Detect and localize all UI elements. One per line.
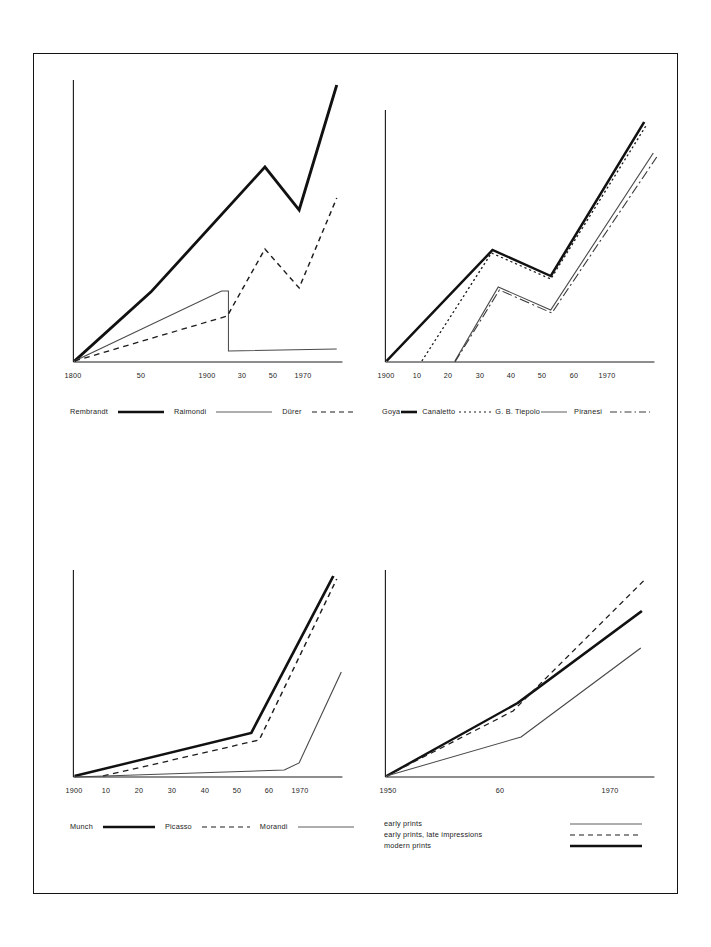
series-line-picasso bbox=[103, 579, 337, 776]
plot-svg-4 bbox=[374, 570, 659, 785]
chart-goya: 1900 10 20 30 40 50 60 1970 Goya Canalet… bbox=[374, 110, 659, 460]
legend-chart-2: Goya Canaletto G. B. Tiepolo bbox=[374, 407, 659, 416]
legend-entry-tiepolo: G. B. Tiepolo bbox=[495, 407, 574, 416]
tick-label: 1970 bbox=[292, 786, 309, 795]
tick-label: 1970 bbox=[602, 786, 619, 795]
x-axis-ticks-2: 1900 10 20 30 40 50 60 1970 bbox=[374, 371, 659, 385]
chart-prints: 1950 60 1970 early prints early prints, … bbox=[374, 570, 659, 865]
legend-label: Canaletto bbox=[422, 407, 455, 416]
legend-entry-early-prints-late-impressions: early prints, late impressions bbox=[384, 829, 642, 840]
legend-entry-munch: Munch bbox=[70, 822, 165, 831]
legend-sample-thin-solid bbox=[570, 820, 642, 828]
chart-munch: 1900 10 20 30 40 50 60 1970 Munch Picass… bbox=[62, 570, 347, 865]
legend-chart-4: early prints early prints, late impressi… bbox=[374, 818, 642, 851]
legend-entry-picasso: Picasso bbox=[165, 822, 260, 831]
plot-svg-1 bbox=[62, 80, 347, 370]
legend-sample-dash-dot bbox=[610, 408, 650, 416]
tick-label: 40 bbox=[507, 371, 516, 380]
legend-label: G. B. Tiepolo bbox=[495, 407, 540, 416]
tick-label: 1900 bbox=[378, 371, 395, 380]
plot-area-2 bbox=[374, 110, 659, 370]
series-line-munch bbox=[75, 576, 334, 776]
legend-entry-piranesi: Piranesi bbox=[574, 407, 654, 416]
legend-label: early prints bbox=[384, 819, 422, 828]
legend-label: Goya bbox=[382, 407, 400, 416]
tick-label: 50 bbox=[538, 371, 547, 380]
legend-sample-thin-solid bbox=[216, 408, 272, 416]
series-line-canaletto bbox=[422, 125, 647, 361]
tick-label: 10 bbox=[413, 371, 422, 380]
tick-label: 1970 bbox=[295, 371, 312, 380]
tick-label: 60 bbox=[496, 786, 505, 795]
legend-sample-thin-solid bbox=[298, 823, 354, 831]
legend-label: Picasso bbox=[165, 822, 192, 831]
axes-2 bbox=[385, 110, 654, 362]
tick-label: 1950 bbox=[380, 786, 397, 795]
tick-label: 60 bbox=[265, 786, 274, 795]
legend-label: modern prints bbox=[384, 841, 431, 850]
tick-label: 50 bbox=[233, 786, 242, 795]
legend-entry-modern-prints: modern prints bbox=[384, 840, 642, 851]
series-line-goya bbox=[387, 122, 645, 361]
tick-label: 30 bbox=[476, 371, 485, 380]
series-group-4 bbox=[387, 579, 646, 776]
tick-label: 1900 bbox=[66, 786, 83, 795]
page-frame: 1800 50 1900 30 50 1970 Rembrandt Raimon… bbox=[33, 53, 678, 894]
series-line-morandi bbox=[75, 672, 342, 777]
legend-entry-early-prints: early prints bbox=[384, 818, 642, 829]
tick-label: 1900 bbox=[199, 371, 216, 380]
legend-entry-canaletto: Canaletto bbox=[422, 407, 495, 416]
plot-svg-3 bbox=[62, 570, 347, 785]
x-axis-ticks-3: 1900 10 20 30 40 50 60 1970 bbox=[62, 786, 347, 800]
tick-label: 10 bbox=[102, 786, 111, 795]
series-group-1 bbox=[75, 85, 337, 361]
plot-area-4 bbox=[374, 570, 659, 785]
legend-entry-goya: Goya bbox=[382, 407, 422, 416]
legend-entry-morandi: Morandi bbox=[260, 822, 364, 831]
tick-label: 60 bbox=[570, 371, 579, 380]
legend-sample-thick-solid bbox=[401, 408, 417, 416]
legend-label: early prints, late impressions bbox=[384, 830, 482, 839]
legend-entry-raimondi: Raimondi bbox=[174, 407, 282, 416]
legend-chart-1: Rembrandt Raimondi Dürer bbox=[62, 407, 347, 416]
series-group-3 bbox=[75, 576, 342, 777]
chart-rembrandt: 1800 50 1900 30 50 1970 Rembrandt Raimon… bbox=[62, 80, 347, 460]
axes-4 bbox=[385, 570, 654, 777]
axes-1 bbox=[73, 80, 342, 362]
legend-sample-dashed bbox=[312, 408, 356, 416]
legend-label: Morandi bbox=[260, 822, 288, 831]
series-line-piranesi bbox=[455, 157, 657, 362]
legend-label: Rembrandt bbox=[70, 407, 108, 416]
legend-sample-thick-solid bbox=[570, 842, 642, 850]
series-line-modern-prints bbox=[387, 611, 642, 776]
plot-svg-2 bbox=[374, 110, 659, 370]
tick-label: 30 bbox=[238, 371, 247, 380]
legend-label: Dürer bbox=[282, 407, 301, 416]
tick-label: 40 bbox=[201, 786, 210, 795]
legend-entry-rembrandt: Rembrandt bbox=[70, 407, 174, 416]
figure-grid: 1800 50 1900 30 50 1970 Rembrandt Raimon… bbox=[34, 54, 679, 895]
series-line-rembrandt bbox=[75, 85, 337, 361]
legend-chart-3: Munch Picasso Morandi bbox=[62, 822, 347, 831]
plot-area-1 bbox=[62, 80, 347, 370]
axes-3 bbox=[73, 570, 342, 777]
series-line-durer bbox=[75, 198, 337, 361]
tick-label: 1970 bbox=[599, 371, 616, 380]
tick-label: 30 bbox=[168, 786, 177, 795]
tick-label: 20 bbox=[444, 371, 453, 380]
legend-sample-dashed bbox=[202, 823, 250, 831]
x-axis-ticks-1: 1800 50 1900 30 50 1970 bbox=[62, 371, 347, 385]
legend-label: Piranesi bbox=[574, 407, 602, 416]
legend-label: Raimondi bbox=[174, 407, 206, 416]
legend-entry-durer: Dürer bbox=[282, 407, 365, 416]
tick-label: 50 bbox=[269, 371, 278, 380]
series-line-early-prints-late bbox=[387, 579, 646, 776]
x-axis-ticks-4: 1950 60 1970 bbox=[374, 786, 659, 800]
legend-sample-thick-solid bbox=[103, 823, 155, 831]
tick-label: 50 bbox=[137, 371, 146, 380]
tick-label: 20 bbox=[135, 786, 144, 795]
plot-area-3 bbox=[62, 570, 347, 785]
legend-sample-thick-solid bbox=[118, 408, 164, 416]
tick-label: 1800 bbox=[65, 371, 82, 380]
legend-label: Munch bbox=[70, 822, 93, 831]
